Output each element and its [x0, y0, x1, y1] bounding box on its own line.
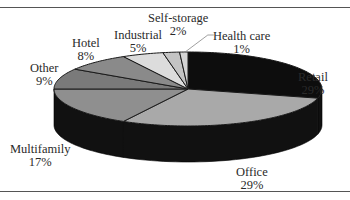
- label-office: Office29%: [236, 166, 268, 192]
- label-self-storage: Self-storage2%: [148, 12, 208, 38]
- label-other: Other9%: [30, 62, 58, 88]
- label-health-care: Health care1%: [213, 30, 270, 56]
- label-hotel: Hotel8%: [72, 37, 100, 63]
- label-retail: Retail29%: [298, 71, 328, 97]
- label-multifamily: Multifamily17%: [10, 143, 70, 169]
